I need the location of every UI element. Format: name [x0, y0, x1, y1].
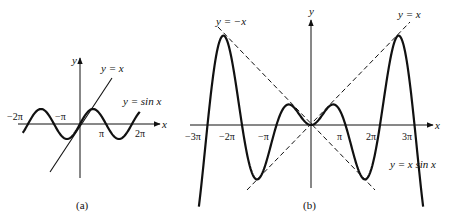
- caption-b: (b): [303, 199, 316, 212]
- tick-b-2pi: 2π: [366, 131, 376, 142]
- label-x-sin-x: y = x sin x: [389, 158, 436, 170]
- label-y-eq-x-a: y = x: [100, 62, 124, 74]
- tick-b-negpi: −π: [258, 131, 269, 142]
- tick-b-3pi: 3π: [402, 131, 412, 142]
- tick-b-pi: π: [337, 131, 342, 142]
- tick-b-neg2pi: −2π: [219, 131, 235, 142]
- tick-a-2pi: 2π: [135, 128, 145, 139]
- panel-a: x y y = x y = sin x −2π −π π 2π (a): [7, 54, 167, 212]
- x-axis-label-a: x: [161, 118, 167, 130]
- figure-canvas: x y y = x y = sin x −2π −π π 2π (a) x y …: [0, 0, 450, 220]
- tick-a-pi: π: [99, 128, 104, 139]
- panel-b: x y y = −x y = x y = x sin x −3π −2π −π …: [185, 5, 440, 212]
- label-y-eq-x-b: y = x: [397, 8, 421, 20]
- line-y-eq-x-a: [50, 78, 112, 172]
- line-y-eq-negx-b: [218, 27, 375, 190]
- caption-a: (a): [76, 199, 89, 212]
- y-axis-label-a: y: [71, 54, 77, 66]
- y-axis-label-b: y: [308, 5, 314, 17]
- label-sin-x: y = sin x: [122, 95, 161, 107]
- label-y-eq-negx: y = −x: [215, 15, 246, 27]
- tick-a-negpi: −π: [55, 111, 66, 122]
- tick-a-neg2pi: −2π: [7, 111, 23, 122]
- x-axis-label-b: x: [434, 119, 440, 131]
- tick-b-neg3pi: −3π: [185, 131, 201, 142]
